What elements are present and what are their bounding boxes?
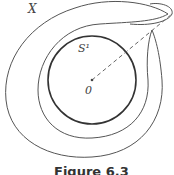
figure-caption: Figure 6.3 — [54, 164, 129, 175]
center-point — [91, 79, 94, 82]
label-s1: S¹ — [78, 42, 90, 55]
label-center: 0 — [85, 84, 92, 97]
label-x: X — [28, 2, 37, 16]
